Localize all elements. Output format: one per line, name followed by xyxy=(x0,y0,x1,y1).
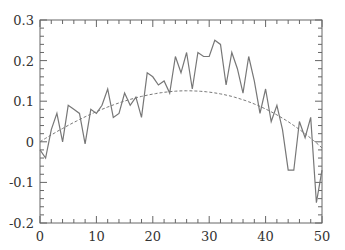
data-series xyxy=(40,40,322,202)
y-tick-label: 0 xyxy=(26,135,34,150)
plot-frame xyxy=(40,20,322,223)
y-tick-label: 0.3 xyxy=(13,13,34,28)
x-tick-label: 10 xyxy=(88,229,105,244)
y-tick-label: 0.2 xyxy=(13,54,34,69)
y-tick-label: -0.2 xyxy=(9,216,34,231)
y-tick-label: 0.1 xyxy=(13,94,34,109)
x-tick-label: 0 xyxy=(36,229,44,244)
x-tick-label: 30 xyxy=(201,229,218,244)
y-tick-label: -0.1 xyxy=(9,175,34,190)
x-tick-label: 20 xyxy=(145,229,162,244)
plot-border xyxy=(40,20,322,223)
x-tick-label: 40 xyxy=(257,229,274,244)
data-line xyxy=(40,40,322,202)
x-tick-label: 50 xyxy=(314,229,331,244)
line-chart: 01020304050-0.2-0.100.10.20.3 xyxy=(0,0,345,250)
